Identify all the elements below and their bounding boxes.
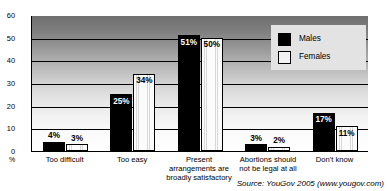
- x-label-present-arrangements: Present arrangements are broadly satisfa…: [161, 155, 237, 183]
- plot-area: 4% 3% 25% 34% 51%: [31, 16, 368, 152]
- bar-value-label: 4%: [48, 132, 60, 140]
- bar-males-present-arrangements: 51%: [178, 35, 200, 151]
- x-label-line: Don't know: [301, 155, 368, 164]
- x-label-line: Abortions should: [230, 155, 306, 164]
- y-tick-20: 20: [0, 103, 15, 110]
- y-tick-40: 40: [0, 58, 15, 65]
- bar-value-label: 2%: [273, 137, 285, 145]
- bar-chart: 0 10 20 30 40 50 60 % 4% 3%: [0, 0, 389, 191]
- x-label-too-difficult: Too difficult: [31, 155, 98, 164]
- y-tick-10: 10: [0, 126, 15, 133]
- source-note: Source: YouGov 2005 (www.yougov.com): [237, 180, 384, 188]
- bar-males-dont-know: 17%: [313, 113, 335, 152]
- legend-swatch-females-icon: [278, 51, 291, 64]
- bar-value-label: 50%: [204, 41, 220, 49]
- x-label-line: Present: [161, 155, 237, 164]
- bar-value-label: 3%: [71, 135, 83, 143]
- bar-value-label: 17%: [315, 116, 331, 124]
- bar-males-too-easy: 25%: [110, 94, 132, 151]
- legend-swatch-males-icon: [278, 33, 291, 46]
- x-label-line: Too difficult: [31, 155, 98, 164]
- bar-group-present-arrangements: 51% 50%: [167, 16, 234, 151]
- x-label-line: not be legal at all: [230, 164, 306, 173]
- bar-females-present-arrangements: 50%: [201, 38, 223, 151]
- bar-value-label: 25%: [113, 98, 129, 106]
- bar-males-too-difficult: 4%: [43, 142, 65, 151]
- bar-value-label: 11%: [339, 130, 355, 138]
- chart-legend: Males Females: [271, 25, 366, 70]
- x-label-line: Too easy: [98, 155, 165, 164]
- y-axis-unit-label: %: [9, 156, 15, 163]
- bar-group-too-difficult: 4% 3%: [32, 16, 99, 151]
- y-tick-50: 50: [0, 35, 15, 42]
- bar-females-too-easy: 34%: [133, 74, 155, 151]
- y-tick-60: 60: [0, 12, 15, 19]
- x-label-too-easy: Too easy: [98, 155, 165, 164]
- x-label-dont-know: Don't know: [301, 155, 368, 164]
- bar-females-not-legal: 2%: [268, 147, 290, 152]
- bar-females-dont-know: 11%: [336, 126, 358, 151]
- bar-value-label: 34%: [136, 77, 152, 85]
- y-tick-0: 0: [0, 148, 15, 155]
- bar-group-too-easy: 25% 34%: [99, 16, 166, 151]
- legend-label-females: Females: [299, 53, 330, 61]
- bar-value-label: 3%: [250, 135, 262, 143]
- bar-value-label: 51%: [181, 39, 197, 47]
- bar-females-too-difficult: 3%: [66, 144, 88, 151]
- legend-label-males: Males: [299, 35, 321, 43]
- x-label-line: broadly satisfactory: [161, 173, 237, 182]
- bar-males-not-legal: 3%: [245, 144, 267, 151]
- y-tick-30: 30: [0, 80, 15, 87]
- legend-item-females: Females: [278, 48, 360, 66]
- x-label-line: arrangements are: [161, 164, 237, 173]
- legend-item-males: Males: [278, 30, 360, 48]
- x-label-not-legal: Abortions should not be legal at all: [230, 155, 306, 173]
